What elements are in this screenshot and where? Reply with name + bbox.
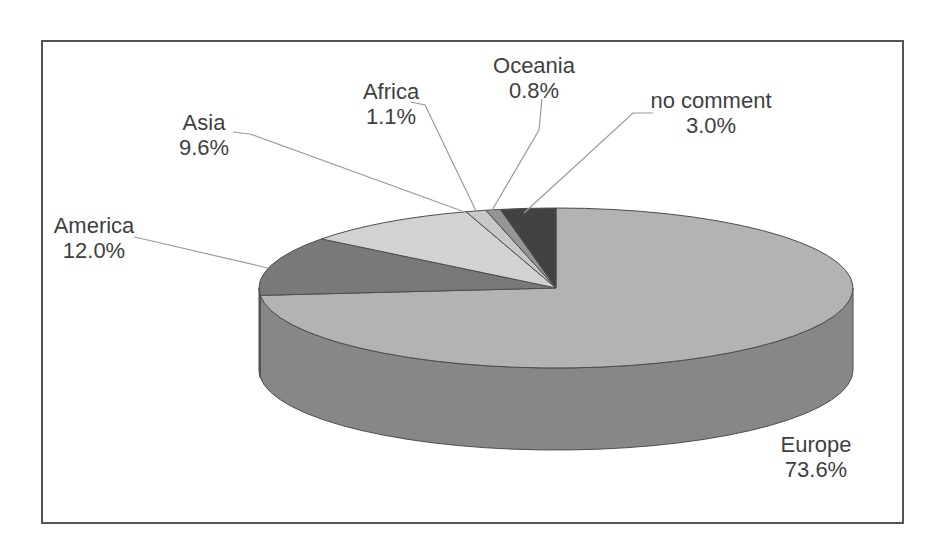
slice-label-oceania: Oceania 0.8%: [493, 53, 575, 103]
slice-percent: 73.6%: [781, 457, 852, 482]
leader-line-america: [134, 237, 268, 268]
slice-percent: 12.0%: [54, 238, 135, 263]
leader-line-oceania: [491, 99, 542, 212]
slice-name: America: [54, 213, 135, 238]
slice-name: Oceania: [493, 53, 575, 78]
leader-line-no-comment: [524, 113, 653, 213]
slice-name: no comment: [650, 88, 771, 113]
leader-line-asia: [233, 132, 462, 211]
leader-line-africa: [411, 102, 476, 211]
slice-label-no-comment: no comment 3.0%: [650, 88, 771, 138]
figure: Europe 73.6% America 12.0% Asia 9.6% Afr…: [0, 0, 939, 549]
slice-name: Asia: [179, 110, 229, 135]
slice-percent: 0.8%: [493, 78, 575, 103]
slice-label-europe: Europe 73.6%: [781, 432, 852, 482]
slice-label-america: America 12.0%: [54, 213, 135, 263]
slice-name: Africa: [363, 79, 419, 104]
pie-slice-side-america: [259, 288, 260, 377]
slice-name: Europe: [781, 432, 852, 457]
slice-percent: 3.0%: [650, 113, 771, 138]
slice-label-africa: Africa 1.1%: [363, 79, 419, 129]
slice-percent: 9.6%: [179, 135, 229, 160]
slice-percent: 1.1%: [363, 104, 419, 129]
slice-label-asia: Asia 9.6%: [179, 110, 229, 160]
